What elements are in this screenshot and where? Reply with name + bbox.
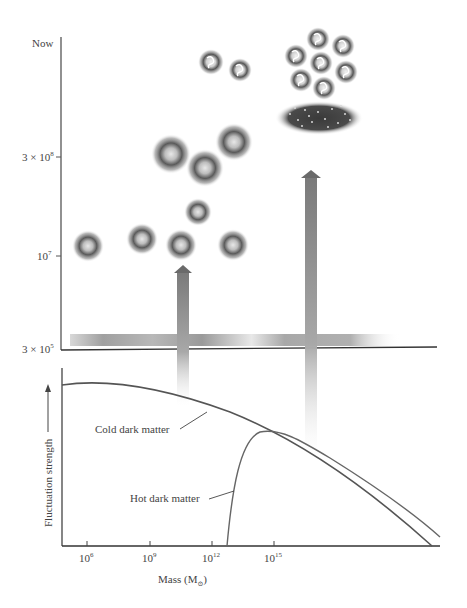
- small-clouds: [72, 198, 249, 262]
- y-tick-3e5-exp: 5: [50, 342, 54, 350]
- hot-dark-matter-curve: [227, 431, 440, 546]
- x-tick-1e9-base: 10: [142, 552, 153, 564]
- x-tick-1e15-base: 10: [264, 552, 275, 564]
- hot-dark-matter-text: Hot dark matter: [130, 492, 200, 504]
- x-tick-1e6-base: 10: [79, 552, 90, 564]
- y-axis-label: Fluctuation strength: [42, 439, 54, 527]
- upper-axes: [56, 37, 437, 350]
- cold-dark-matter-text: Cold dark matter: [95, 423, 170, 435]
- y-tick-3e8-exp: 8: [50, 150, 54, 158]
- y-tick-now: Now: [32, 37, 53, 49]
- y-tick-3e5: 3 × 105: [22, 342, 54, 355]
- x-tick-1e9: 109: [142, 551, 157, 564]
- cold-dark-matter-curve: [62, 383, 432, 546]
- y-tick-now-label: Now: [32, 37, 53, 49]
- y-tick-3e8-base: 3 × 10: [22, 151, 50, 163]
- y-axis-label-text: Fluctuation strength: [42, 439, 54, 527]
- cold-label-leader: [180, 412, 207, 429]
- galaxy-cluster: [284, 27, 358, 100]
- x-tick-1e15-exp: 15: [275, 551, 282, 559]
- y-tick-3e5-base: 3 × 10: [22, 343, 50, 355]
- dark-matter-diagram: [0, 0, 467, 608]
- formation-epoch-band: [70, 334, 400, 346]
- hot-dark-matter-label: Hot dark matter: [130, 492, 200, 504]
- y-tick-1e7-exp: 7: [48, 249, 52, 257]
- supercluster-sheet: [275, 101, 363, 135]
- y-tick-3e8: 3 × 108: [22, 150, 54, 163]
- x-tick-1e6: 106: [79, 551, 94, 564]
- y-tick-1e7: 107: [37, 249, 52, 262]
- x-axis-label-close: ): [203, 573, 207, 585]
- cold-dark-matter-label: Cold dark matter: [95, 423, 170, 435]
- x-tick-1e12-exp: 12: [213, 551, 220, 559]
- y-tick-1e7-base: 10: [37, 250, 48, 262]
- large-clouds: [151, 123, 253, 187]
- x-tick-1e12-base: 10: [202, 552, 213, 564]
- hot-label-leader: [209, 491, 234, 499]
- spiral-galaxies: [198, 49, 252, 82]
- x-tick-1e15: 1015: [264, 551, 282, 564]
- x-tick-1e9-exp: 9: [153, 551, 157, 559]
- x-axis-label-text: Mass (M: [158, 573, 197, 585]
- growth-arrow-large: [301, 170, 321, 455]
- x-tick-1e6-exp: 6: [90, 551, 94, 559]
- x-axis-label: Mass (M⊙): [158, 573, 207, 588]
- x-tick-1e12: 1012: [202, 551, 220, 564]
